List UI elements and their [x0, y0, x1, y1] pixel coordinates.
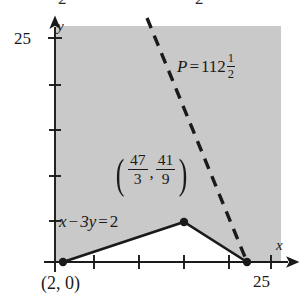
- vertex-y-fraction: 41 9: [156, 152, 176, 186]
- constraint-equals-sign: =: [98, 212, 108, 231]
- objective-whole-number: 112: [201, 57, 226, 76]
- constraint-coef-y: 3y: [80, 212, 96, 231]
- optimal-vertex-label: ( 47 3 , 41 9 ): [113, 152, 190, 196]
- objective-value-label: P=112 1 2: [177, 52, 235, 80]
- x-axis-max-label: 25: [253, 273, 270, 290]
- linear-programming-figure: 2 2: [0, 0, 301, 304]
- vertex-close-paren: ): [179, 154, 188, 196]
- objective-fraction-numerator: 1: [227, 52, 235, 67]
- constraint-minus-sign: −: [69, 212, 79, 231]
- constraint-rhs: 2: [110, 212, 119, 231]
- x-axis-name-label: x: [276, 238, 283, 253]
- y-axis-name-label: y: [57, 19, 64, 34]
- vertex-dot-right: [243, 258, 251, 266]
- vertex-y-numerator: 41: [156, 152, 176, 170]
- vertex-open-paren: (: [116, 154, 125, 196]
- objective-symbol: P: [177, 57, 187, 76]
- constraint-lhs-x: x: [59, 212, 67, 231]
- vertex-y-denominator: 9: [156, 170, 176, 187]
- objective-equals-sign: =: [189, 57, 199, 76]
- constraint-equation-label: x−3y=2: [59, 213, 118, 230]
- objective-fraction-denominator: 2: [227, 67, 235, 81]
- objective-fraction: 1 2: [227, 52, 235, 80]
- origin-vertex-label: (2, 0): [41, 274, 80, 292]
- vertex-dot-optimal: [180, 218, 188, 226]
- vertex-comma: ,: [150, 164, 154, 181]
- y-axis-max-label: 25: [14, 30, 31, 47]
- vertex-x-denominator: 3: [128, 170, 148, 187]
- vertex-x-fraction: 47 3: [128, 152, 148, 186]
- vertex-dot-2-0: [59, 258, 67, 266]
- vertex-x-numerator: 47: [128, 152, 148, 170]
